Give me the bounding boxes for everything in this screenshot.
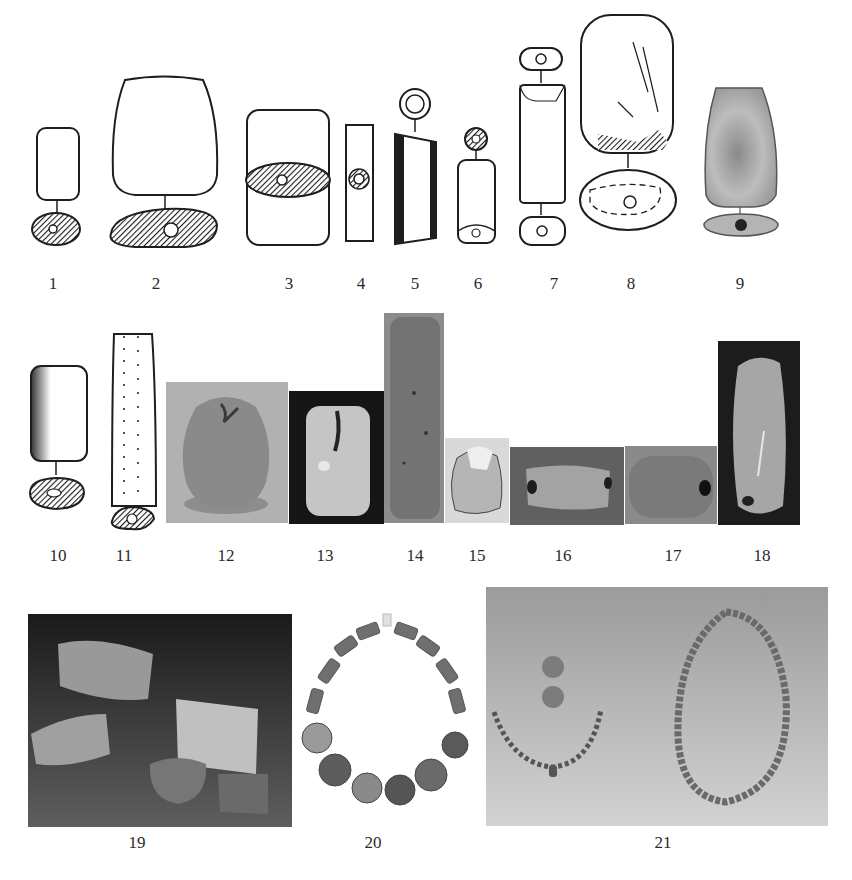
bead-drawing-9 [702, 85, 782, 245]
figure-label-12: 12 [206, 546, 246, 566]
figure-label-3: 3 [269, 274, 309, 294]
figure-label-5: 5 [395, 274, 435, 294]
bead-drawing-1 [28, 125, 84, 250]
bead-photo-12 [166, 382, 288, 523]
bead-photo-18 [718, 341, 800, 525]
figure-label-4: 4 [341, 274, 381, 294]
bead-drawing-8 [578, 12, 678, 247]
bead-drawing-2 [105, 75, 225, 255]
figure-label-6: 6 [458, 274, 498, 294]
figure-label-10: 10 [38, 546, 78, 566]
bead-drawing-11 [106, 331, 162, 529]
figure-label-19: 19 [117, 833, 157, 853]
figure-label-8: 8 [611, 274, 651, 294]
bead-drawing-5 [392, 86, 438, 246]
bead-photo-13 [289, 391, 384, 524]
figure-label-13: 13 [305, 546, 345, 566]
figure-label-11: 11 [104, 546, 144, 566]
figure-label-7: 7 [534, 274, 574, 294]
bead-drawing-7 [518, 45, 568, 250]
figure-label-16: 16 [543, 546, 583, 566]
bead-drawing-6 [453, 127, 497, 249]
bead-photo-20 [295, 610, 481, 820]
bead-photo-15 [445, 438, 509, 523]
figure-label-20: 20 [353, 833, 393, 853]
figure-label-17: 17 [653, 546, 693, 566]
necklace-20-beads [295, 610, 481, 820]
bead-drawing-3 [244, 107, 336, 249]
figure-label-15: 15 [457, 546, 497, 566]
bead-drawing-4 [343, 122, 377, 244]
figure-label-2: 2 [136, 274, 176, 294]
figure-label-1: 1 [33, 274, 73, 294]
bead-photo-17 [625, 446, 717, 524]
bead-photo-19 [28, 614, 292, 827]
figure-label-9: 9 [720, 274, 760, 294]
figure-label-14: 14 [395, 546, 435, 566]
bead-drawing-10 [26, 363, 92, 518]
bead-photo-21 [486, 587, 828, 826]
figure-label-18: 18 [742, 546, 782, 566]
bead-photo-14 [384, 313, 444, 523]
figure-label-21: 21 [643, 833, 683, 853]
bead-photo-16 [510, 447, 624, 525]
